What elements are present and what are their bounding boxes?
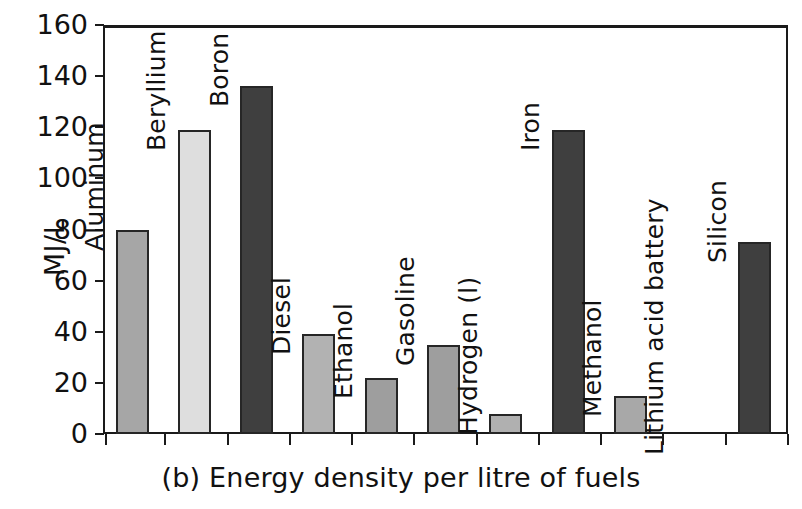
bar	[240, 86, 273, 434]
y-axis-tick-label: 0	[26, 420, 88, 447]
x-axis-tick-mark	[413, 434, 415, 445]
bar	[489, 414, 522, 434]
bar	[116, 230, 149, 435]
x-axis-tick-mark	[725, 434, 727, 445]
chart-figure: MJ/L 020406080100120140160 AluminumBeryl…	[0, 0, 802, 509]
category-label: Methanol	[578, 299, 607, 417]
x-axis-tick-mark	[289, 434, 291, 445]
category-label: Ethanol	[329, 303, 358, 399]
x-axis-tick-mark	[787, 434, 789, 445]
category-label: Lithium acid battery	[640, 198, 669, 455]
bar	[178, 130, 211, 434]
x-axis-tick-mark	[227, 434, 229, 445]
category-label: Hydrogen (l)	[454, 276, 483, 434]
category-label: Gasoline	[391, 256, 420, 366]
y-axis-tick-label: 20	[26, 369, 88, 396]
chart-caption: (b) Energy density per litre of fuels	[0, 462, 802, 493]
y-axis-tick-label: 120	[26, 113, 88, 140]
y-axis-tick-label: 40	[26, 318, 88, 345]
category-label: Boron	[205, 33, 234, 107]
y-axis-tick-label: 140	[26, 62, 88, 89]
x-axis-tick-mark	[351, 434, 353, 445]
x-axis-tick-mark	[476, 434, 478, 445]
x-axis-tick-mark	[662, 434, 664, 445]
category-label: Diesel	[267, 277, 296, 355]
x-axis-tick-mark	[538, 434, 540, 445]
x-axis-tick-mark	[600, 434, 602, 445]
category-label: Iron	[516, 102, 545, 151]
y-axis-tick-labels: 020406080100120140160	[26, 0, 88, 509]
bar	[738, 242, 771, 434]
y-axis-tick-label: 100	[26, 164, 88, 191]
category-label: Silicon	[703, 180, 732, 263]
category-label: Beryllium	[142, 30, 171, 150]
y-axis-tick-label: 80	[26, 216, 88, 243]
x-axis-tick-mark	[164, 434, 166, 445]
y-axis-tick-label: 160	[26, 11, 88, 38]
y-axis-tick-label: 60	[26, 267, 88, 294]
bar	[365, 378, 398, 434]
x-axis-tick-mark	[105, 434, 107, 445]
category-label: Aluminum	[80, 122, 109, 251]
